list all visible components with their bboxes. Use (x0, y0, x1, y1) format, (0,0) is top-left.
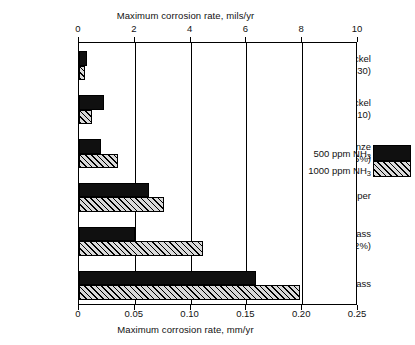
gridline (135, 43, 136, 304)
bar-1000ppm (79, 197, 164, 212)
bar-1000ppm (79, 241, 203, 256)
tick-label-bottom: 0.25 (337, 308, 377, 319)
bottom-axis-title: Maximum corrosion rate, mm/yr (0, 324, 371, 335)
bar-500ppm (79, 95, 104, 110)
tick-mark-top (357, 37, 358, 42)
bar-1000ppm (79, 66, 85, 81)
legend-swatch-500ppm (373, 145, 411, 161)
gridline (246, 43, 247, 304)
legend-label-1000ppm: 1000 ppm NH3 (261, 165, 371, 176)
legend-subscript: 3 (367, 169, 371, 178)
bar-500ppm (79, 183, 149, 198)
bar-500ppm (79, 51, 87, 66)
legend-label-500ppm: 500 ppm NH3 (261, 148, 371, 159)
tick-label-bottom: 0.05 (114, 308, 154, 319)
legend-swatch-1000ppm (373, 161, 411, 177)
tick-label-bottom: 0.15 (225, 308, 265, 319)
tick-label-top: 6 (225, 23, 265, 34)
tick-label-top: 4 (170, 23, 210, 34)
bar-1000ppm (79, 110, 92, 125)
legend: 500 ppm NH3 1000 ppm NH3 (295, 145, 415, 181)
tick-label-top: 8 (281, 23, 321, 34)
plot-area: 500 ppm NH3 1000 ppm NH3 (78, 42, 357, 305)
gridline (191, 43, 192, 304)
tick-label-bottom: 0.20 (281, 308, 321, 319)
bar-1000ppm (79, 154, 118, 169)
legend-subscript: 3 (367, 152, 371, 161)
tick-label-bottom: 0 (58, 308, 98, 319)
tick-label-top: 0 (58, 23, 98, 34)
tick-label-top: 2 (114, 23, 154, 34)
bar-1000ppm (79, 285, 300, 300)
tick-label-bottom: 0.10 (170, 308, 210, 319)
bar-500ppm (79, 139, 101, 154)
bar-500ppm (79, 227, 135, 242)
top-axis-title: Maximum corrosion rate, mils/yr (0, 10, 371, 21)
bar-500ppm (79, 271, 256, 286)
tick-label-top: 10 (337, 23, 377, 34)
